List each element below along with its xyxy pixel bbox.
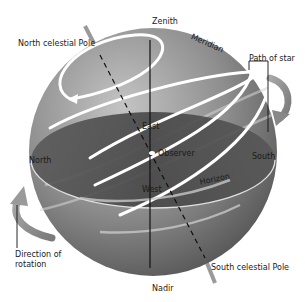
- label-west: West: [142, 186, 162, 194]
- label-nadir: Nadir: [152, 285, 173, 293]
- label-north-celestial-pole: North celestial Pole: [18, 40, 95, 48]
- label-zenith: Zenith: [152, 18, 178, 26]
- label-path-of-star: Path of star: [249, 55, 295, 63]
- observer-marker: [149, 151, 155, 155]
- label-observer: Observer: [158, 150, 195, 158]
- celestial-sphere-diagram: Zenith Meridian North celestial Pole Pat…: [0, 0, 305, 302]
- label-direction-of-rotation: Direction of rotation: [15, 250, 75, 269]
- label-north: North: [29, 157, 51, 165]
- label-east: East: [142, 123, 159, 131]
- rotation-arrow-right: [270, 78, 290, 126]
- label-south-celestial-pole: South celestial Pole: [211, 264, 289, 272]
- label-south: South: [252, 153, 275, 161]
